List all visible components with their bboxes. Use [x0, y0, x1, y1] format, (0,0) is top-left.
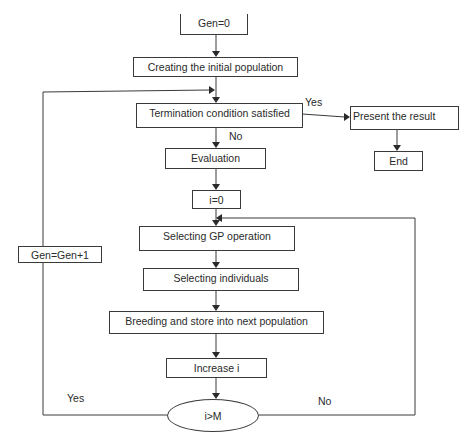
node-label: End [389, 155, 408, 167]
node-label: Gen=0 [198, 17, 230, 29]
node-evaluation: Evaluation [165, 148, 266, 169]
node-increase-i: Increase i [166, 358, 267, 378]
edge-label-term-no: No [229, 130, 242, 142]
edge-label-loop-yes: Yes [67, 392, 84, 404]
node-select-individuals: Selecting individuals [143, 268, 299, 291]
node-termination-check: Termination condition satisfied [136, 103, 303, 128]
node-label: Evaluation [191, 152, 240, 164]
edge-label-loop-no: No [318, 395, 331, 407]
node-label: Selecting GP operation [163, 230, 271, 242]
node-select-operation: Selecting GP operation [139, 226, 295, 251]
node-label: Increase i [194, 362, 240, 374]
node-breeding: Breeding and store into next population [109, 311, 324, 334]
node-create-population: Creating the initial population [133, 57, 298, 77]
node-label: i>M [204, 410, 221, 422]
node-label: Present the result [353, 110, 435, 122]
node-gen-increment: Gen=Gen+1 [18, 246, 102, 263]
node-label: Gen=Gen+1 [31, 249, 89, 261]
node-label: Creating the initial population [148, 61, 283, 73]
node-gen-init: Gen=0 [180, 14, 248, 35]
node-label: i=0 [209, 194, 223, 206]
node-label: Selecting individuals [173, 272, 268, 284]
node-present-result: Present the result [350, 106, 459, 130]
node-decision: i>M [167, 399, 259, 432]
node-label: Termination condition satisfied [149, 107, 290, 119]
edge-label-term-yes: Yes [305, 96, 322, 108]
flowchart: Gen=0 Creating the initial population Te… [0, 0, 472, 444]
node-end: End [374, 151, 423, 171]
node-i-init: i=0 [192, 190, 241, 209]
node-label: Breeding and store into next population [125, 315, 308, 327]
edge-termination-to-present [302, 114, 345, 117]
arrowhead-icon [209, 86, 215, 94]
